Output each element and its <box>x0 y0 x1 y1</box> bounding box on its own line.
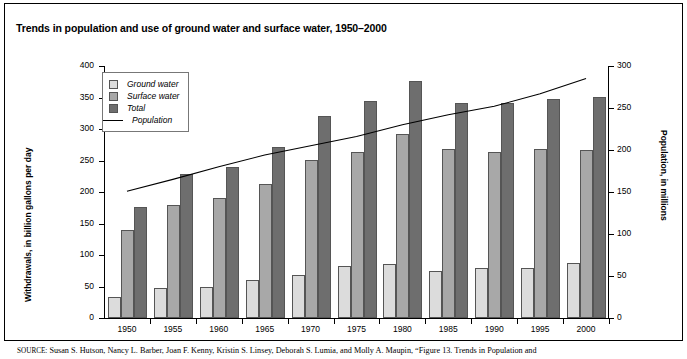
bar-group <box>521 66 560 318</box>
x-tick-label: 1990 <box>471 324 517 334</box>
y-tick-label-left: 250 <box>60 155 94 165</box>
x-tick <box>609 319 610 324</box>
bar-total <box>455 103 468 318</box>
y-tick-label-left: 350 <box>60 92 94 102</box>
x-tick-label: 1955 <box>150 324 196 334</box>
bar-total <box>272 147 285 318</box>
bar-group <box>567 66 606 318</box>
legend-item: Ground water <box>109 78 179 90</box>
bar-group <box>200 66 239 318</box>
bar-surface-water <box>534 149 547 318</box>
y-tick-right <box>609 234 614 235</box>
chart-legend: Ground waterSurface waterTotalPopulation <box>102 72 189 132</box>
bar-surface-water <box>351 152 364 318</box>
y-tick-label-right: 100 <box>617 228 651 238</box>
legend-item: Surface water <box>109 90 179 102</box>
bar-surface-water <box>488 152 501 318</box>
x-tick-label: 2000 <box>563 324 609 334</box>
bar-surface-water <box>396 134 409 318</box>
bar-ground-water <box>108 297 121 318</box>
source-citation: Susan S. Hutson, Nancy L. Barber, Joan F… <box>49 346 536 355</box>
legend-item: Population <box>109 114 179 126</box>
y-tick-right <box>609 66 614 67</box>
x-tick-label: 1985 <box>425 324 471 334</box>
y-tick-right <box>609 192 614 193</box>
bar-surface-water <box>121 230 134 318</box>
bar-ground-water <box>429 271 442 318</box>
source-label: SOURCE: <box>17 347 47 355</box>
x-tick-label: 1975 <box>334 324 380 334</box>
bar-ground-water <box>200 287 213 319</box>
legend-item: Total <box>109 102 179 114</box>
bar-total <box>180 174 193 318</box>
x-tick-label: 1960 <box>196 324 242 334</box>
figure-page: Trends in population and use of ground w… <box>0 0 687 359</box>
y-tick-label-right: 150 <box>617 186 651 196</box>
bar-group <box>475 66 514 318</box>
bar-total <box>364 101 377 318</box>
bar-ground-water <box>567 263 580 318</box>
bar-total <box>501 103 514 318</box>
page-title: Trends in population and use of ground w… <box>16 22 387 34</box>
y-tick-label-right: 0 <box>617 312 651 322</box>
y-tick-label-right: 300 <box>617 60 651 70</box>
x-tick-label: 1995 <box>517 324 563 334</box>
bar-ground-water <box>246 280 259 318</box>
y-tick-label-left: 400 <box>60 60 94 70</box>
bar-group <box>429 66 468 318</box>
legend-item-label: Ground water <box>127 79 179 89</box>
bar-total <box>318 116 331 318</box>
bar-ground-water <box>292 275 305 318</box>
y-tick-label-right: 50 <box>617 270 651 280</box>
bar-ground-water <box>154 288 167 318</box>
bar-ground-water <box>383 264 396 318</box>
bar-ground-water <box>475 268 488 318</box>
y-tick-right <box>609 150 614 151</box>
y-tick-label-right: 250 <box>617 102 651 112</box>
bar-group <box>338 66 377 318</box>
y-tick-label-left: 0 <box>60 312 94 322</box>
bar-total <box>593 97 606 318</box>
bar-total <box>134 207 147 318</box>
y-tick-label-left: 50 <box>60 281 94 291</box>
x-axis <box>104 318 609 319</box>
legend-swatch-total <box>109 104 118 113</box>
y-tick-label-left: 100 <box>60 249 94 259</box>
y-tick-label-left: 300 <box>60 123 94 133</box>
bar-surface-water <box>580 150 593 318</box>
y-tick-label-left: 200 <box>60 186 94 196</box>
legend-item-label: Surface water <box>127 91 179 101</box>
bar-surface-water <box>259 184 272 318</box>
bar-ground-water <box>338 266 351 318</box>
bar-total <box>547 99 560 318</box>
legend-line-population <box>103 120 123 121</box>
x-tick-label: 1950 <box>104 324 150 334</box>
bar-group <box>292 66 331 318</box>
x-tick-label: 1965 <box>242 324 288 334</box>
y-axis-left-title: Withdrawals, in billion gallons per day <box>23 148 33 302</box>
y-tick-right <box>609 108 614 109</box>
bar-surface-water <box>305 160 318 318</box>
bar-group <box>246 66 285 318</box>
bar-total <box>409 81 422 319</box>
legend-item-label: Total <box>127 103 145 113</box>
x-tick-label: 1980 <box>379 324 425 334</box>
bar-ground-water <box>521 268 534 318</box>
bar-surface-water <box>167 205 180 318</box>
y-tick-label-right: 200 <box>617 144 651 154</box>
legend-swatch-ground-water <box>109 80 118 89</box>
bar-surface-water <box>442 149 455 318</box>
y-tick-label-left: 150 <box>60 218 94 228</box>
bar-total <box>226 167 239 318</box>
bar-surface-water <box>213 198 226 318</box>
legend-swatch-surface-water <box>109 92 118 101</box>
bar-group <box>383 66 422 318</box>
x-tick-label: 1970 <box>288 324 334 334</box>
legend-item-label: Population <box>132 115 172 125</box>
y-axis-right-title: Population, in millions <box>659 130 669 221</box>
source-note: SOURCE: Susan S. Hutson, Nancy L. Barber… <box>17 346 537 355</box>
y-tick-left <box>99 318 104 319</box>
y-tick-right <box>609 276 614 277</box>
